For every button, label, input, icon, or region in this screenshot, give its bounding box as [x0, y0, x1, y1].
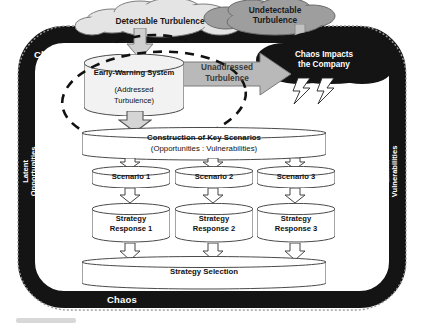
scenario-1-label: Scenario 1	[92, 171, 170, 182]
unaddressed-turbulence-label: Unaddressed Turbulence	[190, 62, 264, 84]
chaos-impacts-label: Chaos Impacts the Company	[272, 50, 376, 70]
ews-title: Early-Warning System	[84, 68, 184, 78]
undetectable-line2: Turbulence	[215, 15, 335, 25]
scenario-3-node: Scenario 3	[257, 166, 335, 188]
scenario-1-node: Scenario 1	[92, 166, 170, 188]
construction-subtitle: (Opportunities : Vulnerabilities)	[82, 144, 326, 154]
latent-opportunities-line2: Opportunities	[30, 137, 38, 205]
construction-title: Construction of Key Scenarios	[82, 133, 326, 143]
strategy-response-1-line1: Strategy	[92, 214, 170, 224]
strategy-response-1-line2: Response 1	[92, 224, 170, 234]
strategy-response-3-node: Strategy Response 3	[257, 203, 335, 243]
strategy-response-3-line2: Response 3	[257, 224, 335, 234]
ews-subtitle-line1: (Addressed	[84, 85, 184, 96]
scenario-2-label: Scenario 2	[175, 171, 253, 182]
strategy-response-2-line2: Response 2	[175, 224, 253, 234]
latent-opportunities-label: Latent Opportunities	[22, 137, 39, 205]
undetectable-turbulence-label: Undetectable Turbulence	[215, 5, 335, 25]
construction-of-key-scenarios-node: Construction of Key Scenarios (Opportuni…	[82, 127, 326, 161]
arrow-scenario-3-to-response-3	[285, 188, 307, 204]
chaos-impacts-line2: the Company	[272, 60, 376, 70]
scenario-3-label: Scenario 3	[257, 171, 335, 182]
scenario-2-node: Scenario 2	[175, 166, 253, 188]
strategy-response-1-label: Strategy Response 1	[92, 214, 170, 234]
strategy-response-2-node: Strategy Response 2	[175, 203, 253, 243]
strategy-response-2-label: Strategy Response 2	[175, 214, 253, 234]
strategy-response-3-label: Strategy Response 3	[257, 214, 335, 234]
latent-vulnerabilities-label: Latent Vulnerabilities	[383, 137, 400, 205]
strategy-response-1-node: Strategy Response 1	[92, 203, 170, 243]
latent-vulnerabilities-line2: Vulnerabilities	[391, 137, 399, 205]
strategy-selection-label: Strategy Selection	[82, 267, 326, 277]
undetectable-line1: Undetectable	[215, 5, 335, 15]
page-artifact	[16, 318, 76, 323]
ews-subtitle: (Addressed Turbulence)	[84, 85, 184, 106]
ews-subtitle-line2: Turbulence)	[84, 96, 184, 107]
arrow-scenario-1-to-response-1	[120, 188, 142, 204]
unaddressed-line1: Unaddressed	[190, 62, 264, 73]
chaos-label-bottom: Chaos	[107, 294, 137, 305]
strategy-response-3-line1: Strategy	[257, 214, 335, 224]
strategy-response-2-line1: Strategy	[175, 214, 253, 224]
early-warning-system-node: Early-Warning System (Addressed Turbulen…	[84, 54, 184, 116]
diagram-canvas: Chaos Chaos Latent Opportunities Latent …	[0, 0, 424, 328]
unaddressed-line2: Turbulence	[190, 73, 264, 84]
chaos-impacts-line1: Chaos Impacts	[272, 50, 376, 60]
strategy-selection-node: Strategy Selection	[82, 256, 326, 290]
arrow-scenario-2-to-response-2	[203, 188, 225, 204]
